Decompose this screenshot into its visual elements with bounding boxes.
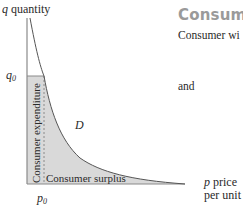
p0-tick-label: p0 bbox=[37, 191, 47, 206]
consumer-expenditure-label: Consumer expenditure bbox=[30, 83, 42, 183]
x-axis-label: p price per unit bbox=[204, 176, 241, 202]
x-axis-text-1: price bbox=[210, 175, 237, 189]
body-line-1: Consumer wi bbox=[178, 29, 240, 41]
x-axis-text-2: per unit bbox=[204, 189, 241, 202]
shaded-area bbox=[27, 76, 185, 184]
consumer-surplus-label: Consumer surplus bbox=[46, 172, 126, 184]
q0-tick-label: q0 bbox=[6, 68, 16, 83]
y-axis-label: q quantity bbox=[2, 2, 50, 17]
section-heading: Consume bbox=[178, 6, 243, 24]
p0-sub: 0 bbox=[43, 197, 47, 206]
demand-curve-label: D bbox=[75, 118, 84, 133]
q0-sub: 0 bbox=[12, 74, 16, 83]
demand-curve-figure: q quantity q0 p0 D Consumer expenditure … bbox=[0, 0, 243, 212]
y-axis-text: quantity bbox=[8, 2, 50, 16]
body-line-2: and bbox=[178, 80, 195, 92]
